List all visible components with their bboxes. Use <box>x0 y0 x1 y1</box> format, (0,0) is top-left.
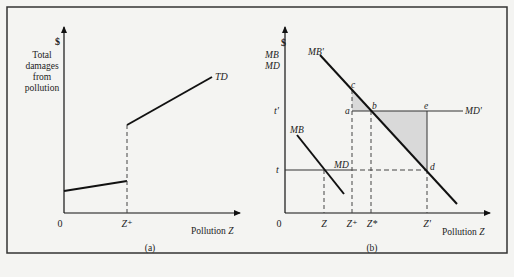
tick-zplus-a: Z⁺ <box>122 218 133 229</box>
panel-b: $ MB MD t' t MB' MB MD MD' c a b e d 0 Z… <box>264 27 490 254</box>
y-label-b-md: MD <box>264 61 280 71</box>
point-a: a <box>345 106 350 116</box>
mb-label: MB <box>289 125 304 135</box>
y-label-b-mb: MB <box>264 50 279 60</box>
y-label-a-line2: damages <box>25 61 59 71</box>
x-label-a: Pollution Z <box>191 226 234 236</box>
point-e: e <box>424 101 428 111</box>
y-label-a-line1: Total <box>32 50 52 60</box>
md-prime-label: MD' <box>464 106 483 116</box>
panel-a: TD $ Total damages from pollution 0 Z⁺ P… <box>25 27 240 254</box>
td-label: TD <box>215 71 229 82</box>
mb-prime-label: MB' <box>307 47 325 57</box>
td-curve-upper <box>127 77 212 125</box>
mb-prime-curve <box>320 55 457 204</box>
tick-t: t <box>276 164 279 175</box>
y-unit-b: $ <box>281 37 286 48</box>
tick-zstar: Z* <box>367 218 378 229</box>
point-c: c <box>351 80 356 90</box>
figure-border <box>7 7 507 253</box>
tick-zplus-b: Z⁺ <box>347 218 358 229</box>
tick-zprime: Z' <box>423 218 432 229</box>
x-label-b: Pollution Z <box>442 227 485 237</box>
origin-a: 0 <box>58 218 63 229</box>
tick-z: Z <box>321 218 327 229</box>
caption-b: (b) <box>366 243 377 254</box>
point-b: b <box>372 101 377 111</box>
md-label: MD <box>333 160 349 170</box>
figure-canvas: TD $ Total damages from pollution 0 Z⁺ P… <box>0 0 514 277</box>
point-d: d <box>430 162 435 172</box>
caption-a: (a) <box>145 243 156 254</box>
y-label-a-line4: pollution <box>25 83 60 93</box>
origin-b: 0 <box>277 218 282 229</box>
y-unit-a: $ <box>55 36 60 47</box>
tick-t-prime: t' <box>274 105 280 116</box>
td-curve-lower <box>64 181 127 191</box>
y-label-a-line3: from <box>33 72 52 82</box>
